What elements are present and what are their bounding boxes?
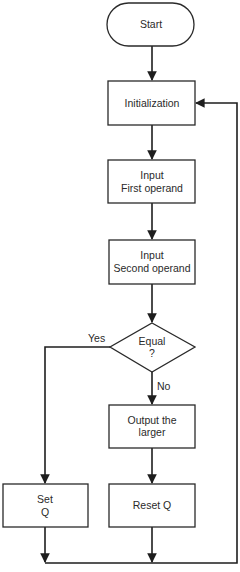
node-input-second-line2: Second operand [113,262,190,274]
node-input-second-line1: Input [140,249,163,261]
node-set-q-line1: Set [37,493,53,505]
node-set-q: Set Q [3,484,88,527]
node-start: Start [107,3,194,46]
node-initialization-label: Initialization [125,97,180,109]
node-set-q-line2: Q [41,506,49,518]
node-input-first-line1: Input [140,169,163,181]
edge-label-no: No [157,380,171,392]
node-reset-q-label: Reset Q [133,499,172,511]
flowchart-canvas: Yes No Start Initialization Input First … [0,0,240,572]
node-start-label: Start [140,18,162,30]
node-output-line1: Output the [127,414,176,426]
node-input-first-operand: Input First operand [108,160,195,203]
node-equal-line1: Equal [139,335,166,347]
node-output-larger: Output the larger [109,405,195,448]
edge-equal-set-q-yes [45,347,110,483]
node-equal-line2: ? [149,347,155,359]
node-output-line2: larger [139,426,166,438]
node-initialization: Initialization [108,81,195,125]
edge-label-yes: Yes [88,332,105,344]
node-input-second-operand: Input Second operand [109,240,195,284]
node-reset-q: Reset Q [109,484,195,527]
node-input-first-line2: First operand [121,182,183,194]
node-equal-decision: Equal ? [110,323,195,372]
